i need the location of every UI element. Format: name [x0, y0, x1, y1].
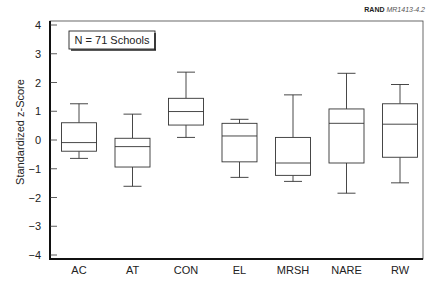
- y-tick-label: 2: [35, 77, 41, 89]
- y-tick-label: −4: [28, 249, 41, 261]
- y-axis-label: Standardized z-Score: [14, 79, 26, 185]
- box-el: [222, 123, 257, 162]
- x-tick-label: RW: [391, 264, 410, 276]
- box-rw: [383, 104, 418, 157]
- x-tick-label: EL: [233, 264, 246, 276]
- box-nare: [329, 109, 364, 163]
- x-tick-label: CON: [174, 264, 199, 276]
- y-tick-label: −2: [28, 192, 41, 204]
- box-ac: [62, 123, 97, 151]
- y-tick-label: 4: [35, 19, 41, 31]
- x-tick-label: AC: [71, 264, 86, 276]
- y-tick-label: −1: [28, 163, 41, 175]
- x-tick-label: MRSH: [277, 264, 309, 276]
- y-tick-label: 3: [35, 48, 41, 60]
- box-plot-chart: −4−3−2−101234Standardized z-ScoreN = 71 …: [0, 0, 439, 289]
- y-tick-label: 1: [35, 105, 41, 117]
- y-tick-label: −3: [28, 220, 41, 232]
- box-mrsh: [276, 137, 311, 175]
- annotation-text: N = 71 Schools: [75, 34, 150, 46]
- x-tick-label: NARE: [331, 264, 362, 276]
- x-tick-label: AT: [126, 264, 140, 276]
- box-at: [115, 138, 150, 167]
- y-tick-label: 0: [35, 134, 41, 146]
